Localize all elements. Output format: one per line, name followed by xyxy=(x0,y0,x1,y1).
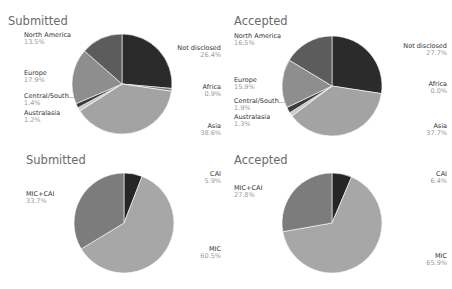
chart-title: Submitted xyxy=(26,153,86,167)
pie-slice-mic-cai xyxy=(282,173,332,232)
chart-title: Accepted xyxy=(234,14,288,28)
label-north-america: North America13.5% xyxy=(24,32,71,46)
label-australasia: Australasia1.2% xyxy=(24,110,60,124)
chart-funding-accepted: Accepted MIC+CAI27.8% CAI6.4% MIC65.9% xyxy=(226,145,452,289)
chart-funding-submitted: Submitted MIC+CAI33.7% CAI5.9% MIC60.5% xyxy=(0,145,226,289)
chart-region-submitted: Submitted North America13.5% Europe17.9%… xyxy=(0,0,226,144)
label-central-south: Central/South...1.4% xyxy=(24,93,75,107)
chart-region-accepted: Accepted North America16.5% Europe15.9% … xyxy=(226,0,452,144)
label-central-south: Central/South...1.9% xyxy=(234,98,285,112)
label-not-disclosed: Not disclosed27.7% xyxy=(403,43,447,57)
pie-slice-not-disclosed xyxy=(332,36,382,94)
label-mic: MIC60.5% xyxy=(200,246,221,260)
label-asia: Asia38.6% xyxy=(200,123,221,137)
label-mic-cai: MIC+CAI33.7% xyxy=(26,191,54,205)
label-africa: Africa0.9% xyxy=(202,84,221,98)
label-mic-cai: MIC+CAI27.8% xyxy=(234,185,262,199)
label-asia: Asia37.7% xyxy=(426,123,447,137)
label-north-america: North America16.5% xyxy=(234,33,281,47)
pie-slice-not-disclosed xyxy=(122,34,172,88)
label-europe: Europe17.9% xyxy=(24,70,47,84)
label-australasia: Australasia1.3% xyxy=(234,114,270,128)
label-cai: CAI5.9% xyxy=(204,171,221,185)
label-not-disclosed: Not disclosed26.4% xyxy=(177,45,221,59)
label-africa: Africa0.0% xyxy=(428,81,447,95)
chart-title: Submitted xyxy=(8,14,68,28)
label-cai: CAI6.4% xyxy=(430,171,447,185)
label-europe: Europe15.9% xyxy=(234,77,257,91)
chart-title: Accepted xyxy=(234,153,288,167)
label-mic: MIC65.9% xyxy=(426,253,447,267)
